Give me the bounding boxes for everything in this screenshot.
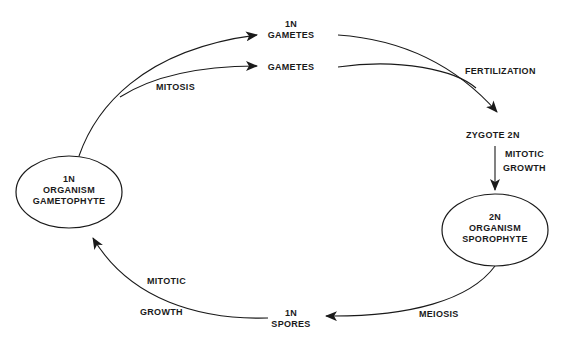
meiosis-arrow	[326, 266, 495, 316]
meiosis-label: MEIOSIS	[419, 308, 459, 320]
gametophyte-label-3: GAMETOPHYTE	[33, 195, 106, 207]
zygote-label: ZYGOTE 2N	[466, 129, 520, 141]
life-cycle-diagram	[0, 0, 572, 344]
spores-label-2: SPORES	[271, 318, 310, 330]
fertilization-label: FERTILIZATION	[465, 65, 536, 77]
sporophyte-label-3: SPOROPHYTE	[462, 233, 528, 245]
gametes-bottom-label: GAMETES	[268, 61, 315, 73]
fertilization-arrow-lower	[338, 64, 476, 88]
mitotic-growth-bottom-label-1: MITOTIC	[147, 275, 186, 287]
mitotic-growth-top-label-2: GROWTH	[503, 162, 546, 174]
gametes-top-label-2: GAMETES	[268, 29, 315, 41]
mitotic-growth-bottom-label-2: GROWTH	[140, 306, 183, 318]
mitotic-growth-top-label-1: MITOTIC	[505, 148, 544, 160]
mitosis-arrow-upper	[79, 35, 257, 156]
mitosis-label: MITOSIS	[156, 81, 195, 93]
